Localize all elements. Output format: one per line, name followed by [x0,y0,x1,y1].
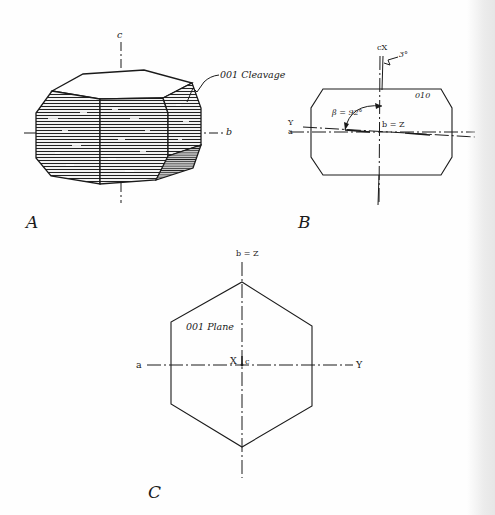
panel-b-beta-label: β = 92° [332,109,363,117]
panel-c-a-label: a [136,360,142,370]
panel-b-letter: B [298,214,311,231]
panel-c-letter: C [148,484,161,501]
panel-b-y-label: Y [288,119,293,127]
figure-canvas: c b 001 Cleavage A cX 3° 010 β = 92° b =… [0,0,495,515]
panel-a-cleavage-label: 001 Cleavage [220,70,285,80]
panel-c-x-label: X [230,356,237,366]
panel-a-letter: A [26,214,38,231]
panel-b-3deg-label: 3° [399,51,408,59]
panel-c-y-label: Y [356,360,362,370]
panel-b-bz-label: b = Z [382,121,404,129]
panel-c-basal-section [147,262,353,478]
panel-b-section [290,56,475,205]
panel-b-cx-label: cX [377,44,387,52]
panel-a-b-axis-label: b [226,127,232,137]
panel-c-plane-label: 001 Plane [186,322,234,332]
panel-a-crystal [24,42,225,203]
panel-a-c-axis-label: c [117,30,122,40]
panel-b-010-label: 010 [415,92,430,100]
panel-c-c-label: c [245,358,249,366]
panel-c-bz-label: b = Z [236,250,258,258]
panel-b-a-label: a [288,128,293,136]
